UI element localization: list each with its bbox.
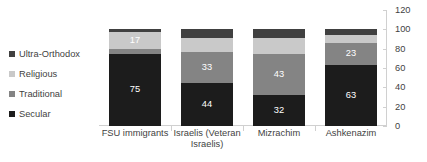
- y-axis-tick: [383, 68, 387, 69]
- bar-segment[interactable]: 43: [253, 54, 305, 96]
- stacked-bar[interactable]: 2363: [325, 10, 377, 126]
- legend-label: Religious: [19, 69, 57, 79]
- bar-value-label: 17: [130, 36, 140, 45]
- bar-value-label: 44: [202, 100, 212, 109]
- y-axis-tick: [383, 49, 387, 50]
- bar-segment[interactable]: 63: [325, 65, 377, 126]
- bar-column: 4332: [243, 10, 315, 126]
- bars-container: 1775334443322363: [99, 10, 387, 126]
- category-separator-tick: [315, 126, 316, 131]
- legend-label: Ultra-Orthodox: [19, 49, 80, 59]
- category-label-line: FSU immigrants: [100, 128, 170, 139]
- bar-value-label: 33: [202, 63, 212, 72]
- y-axis-tick: [383, 10, 387, 11]
- category-label-line: Mizrachim: [244, 128, 314, 139]
- bar-segment[interactable]: 23: [325, 43, 377, 65]
- legend-swatch-icon: [9, 91, 15, 97]
- legend-item-secular[interactable]: Secular: [9, 104, 101, 124]
- y-axis-tick-label: 40: [395, 82, 405, 92]
- y-axis-tick-label: 100: [395, 24, 411, 34]
- bar-column: 1775: [99, 10, 171, 126]
- category-label: Mizrachim: [243, 128, 315, 150]
- legend-swatch-icon: [9, 51, 15, 57]
- stacked-bar[interactable]: 4332: [253, 10, 305, 126]
- legend-item-ultra-orthodox[interactable]: Ultra-Orthodox: [9, 44, 101, 64]
- stacked-bar-chart: Ultra-Orthodox Religious Traditional Sec…: [0, 0, 427, 162]
- x-axis-category-labels: FSU immigrantsIsraelis (VeteranIsraelis)…: [99, 128, 387, 150]
- bar-value-label: 23: [346, 49, 356, 58]
- category-label-line: Israelis): [172, 139, 242, 150]
- legend-label: Secular: [19, 109, 51, 119]
- legend-swatch-icon: [9, 71, 15, 77]
- plot-area: 1775334443322363: [99, 10, 387, 126]
- y-axis-tick: [383, 87, 387, 88]
- bar-segment[interactable]: 75: [109, 54, 161, 127]
- bar-segment[interactable]: 44: [181, 83, 233, 126]
- legend-label: Traditional: [19, 89, 62, 99]
- stacked-bar[interactable]: 3344: [181, 10, 233, 126]
- legend-item-religious[interactable]: Religious: [9, 64, 101, 84]
- category-label: Israelis (VeteranIsraelis): [171, 128, 243, 150]
- legend-swatch-icon: [9, 111, 15, 117]
- bar-segment[interactable]: [253, 29, 305, 38]
- y-axis-tick-label: 20: [395, 102, 405, 112]
- y-axis-tick: [383, 126, 387, 127]
- legend-item-traditional[interactable]: Traditional: [9, 84, 101, 104]
- y-axis-tick: [383, 29, 387, 30]
- bar-column: 3344: [171, 10, 243, 126]
- bar-segment[interactable]: 33: [181, 52, 233, 84]
- bar-segment[interactable]: [181, 38, 233, 52]
- y-axis-tick-label: 0: [395, 121, 400, 131]
- bar-segment[interactable]: 32: [253, 95, 305, 126]
- category-label-line: Israelis (Veteran: [172, 128, 242, 139]
- bar-value-label: 75: [130, 85, 140, 94]
- bar-value-label: 63: [346, 91, 356, 100]
- y-axis-tick-label: 80: [395, 44, 405, 54]
- bar-value-label: 43: [274, 70, 284, 79]
- stacked-bar[interactable]: 1775: [109, 10, 161, 126]
- bar-value-label: 32: [274, 106, 284, 115]
- category-separator-tick: [171, 126, 172, 131]
- category-label: FSU immigrants: [99, 128, 171, 150]
- y-axis-tick: [383, 107, 387, 108]
- bar-segment[interactable]: [253, 38, 305, 53]
- category-label-line: Ashkenazim: [316, 128, 386, 139]
- bar-segment[interactable]: [181, 29, 233, 38]
- bar-segment[interactable]: [325, 35, 377, 43]
- bar-column: 2363: [315, 10, 387, 126]
- category-label: Ashkenazim: [315, 128, 387, 150]
- y-axis-tick-label: 120: [395, 5, 411, 15]
- y-axis-tick-label: 60: [395, 63, 405, 73]
- category-separator-tick: [243, 126, 244, 131]
- chart-legend: Ultra-Orthodox Religious Traditional Sec…: [9, 44, 101, 124]
- bar-segment[interactable]: 17: [109, 32, 161, 48]
